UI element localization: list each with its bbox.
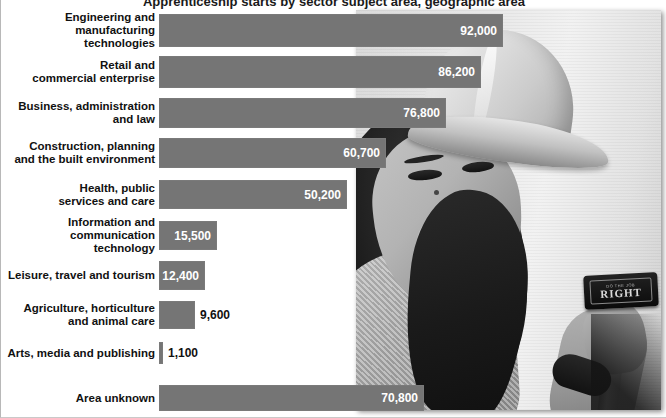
category-label: Business, administration and law: [1, 100, 159, 126]
category-label: Arts, media and publishing: [1, 347, 159, 360]
bar-track: 50,200: [159, 180, 666, 209]
bar-value-label: 50,200: [304, 188, 347, 202]
category-label: Agriculture, horticulture and animal car…: [1, 302, 159, 328]
bar[interactable]: 1,100: [159, 342, 163, 364]
category-label: Information and communication technology: [1, 216, 159, 255]
category-label: Construction, planning and the built env…: [1, 140, 159, 166]
category-label: Area unknown: [1, 392, 159, 405]
bar-value-label: 1,100: [163, 346, 198, 360]
bar[interactable]: 60,700: [159, 138, 386, 168]
bar[interactable]: 50,200: [159, 180, 347, 209]
bar[interactable]: 12,400: [159, 261, 205, 290]
bar-value-label: 70,800: [381, 391, 424, 405]
bar[interactable]: 9,600: [159, 301, 195, 329]
bar-row: Business, administration and law76,800: [1, 98, 666, 128]
bar-row: Agriculture, horticulture and animal car…: [1, 301, 666, 329]
bar-value-label: 9,600: [195, 308, 230, 322]
bar-track: 76,800: [159, 98, 666, 128]
bar-value-label: 15,500: [174, 229, 217, 243]
bar-row: Health, public services and care50,200: [1, 180, 666, 209]
chart-container: DO THE JOB RIGHT Apprenticeship starts b…: [0, 0, 666, 418]
bar-row: Construction, planning and the built env…: [1, 138, 666, 168]
bar[interactable]: 86,200: [159, 56, 481, 88]
bar-value-label: 60,700: [343, 146, 386, 160]
bar[interactable]: 76,800: [159, 98, 446, 128]
bar-value-label: 76,800: [403, 106, 446, 120]
bar[interactable]: 70,800: [159, 385, 424, 411]
bar-track: 1,100: [159, 342, 666, 364]
chart-title: Apprenticeship starts by sector subject …: [1, 0, 666, 9]
category-label: Engineering and manufacturing technologi…: [1, 11, 159, 50]
chart-layer: Apprenticeship starts by sector subject …: [1, 0, 666, 417]
bar-track: 92,000: [159, 14, 666, 47]
bar-row: Engineering and manufacturing technologi…: [1, 14, 666, 47]
bar-track: 12,400: [159, 261, 666, 290]
bar-value-label: 86,200: [438, 65, 481, 79]
category-label: Health, public services and care: [1, 182, 159, 208]
bar-value-label: 92,000: [460, 24, 503, 38]
category-label: Leisure, travel and tourism: [1, 269, 159, 282]
bar-row: Leisure, travel and tourism12,400: [1, 261, 666, 290]
bar-track: 86,200: [159, 56, 666, 88]
bar-row: Information and communication technology…: [1, 221, 666, 250]
bar-row: Retail and commercial enterprise86,200: [1, 56, 666, 88]
bar-track: 60,700: [159, 138, 666, 168]
bar-track: 9,600: [159, 301, 666, 329]
bar-track: 15,500: [159, 221, 666, 250]
bar-track: 70,800: [159, 385, 666, 411]
bar-row: Area unknown70,800: [1, 385, 666, 411]
bar-value-label: 12,400: [162, 269, 205, 283]
bar[interactable]: 92,000: [159, 14, 503, 47]
bar-row: Arts, media and publishing1,100: [1, 342, 666, 364]
bar[interactable]: 15,500: [159, 221, 217, 250]
category-label: Retail and commercial enterprise: [1, 59, 159, 85]
